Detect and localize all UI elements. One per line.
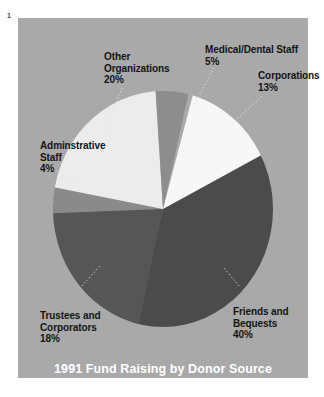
- pie-label-corporations-line1: Corporations: [258, 70, 320, 81]
- figure-container: 1: [0, 0, 324, 397]
- pie-label-trustees-and-corporators-line1: Trustees and: [40, 310, 101, 321]
- pie-label-other-organizations-line2: Organizations: [104, 63, 169, 74]
- pie-label-friends-and-bequests-percent: 40%: [233, 329, 289, 341]
- pie-label-adminstrative-staff-line2: Staff: [40, 152, 62, 163]
- chart-panel: Other Organizations 20% Medical/Dental S…: [18, 18, 308, 378]
- pie-label-trustees-and-corporators: Trustees and Corporators 18%: [40, 310, 101, 345]
- pie-label-trustees-and-corporators-line2: Corporators: [40, 322, 97, 333]
- pie-label-corporations-percent: 13%: [258, 82, 320, 94]
- footnote-marker: 1: [7, 12, 11, 20]
- pie-label-other-organizations: Other Organizations 20%: [104, 51, 169, 86]
- pie-label-friends-and-bequests-line1: Friends and: [233, 306, 289, 317]
- pie-slice-trustees-and-corporators[interactable]: [18, 203, 163, 378]
- pie-label-other-organizations-line1: Other: [104, 51, 130, 62]
- pie-label-medical-dental-staff: Medical/Dental Staff 5%: [205, 44, 298, 67]
- pie-label-friends-and-bequests: Friends and Bequests 40%: [233, 306, 289, 341]
- pie-label-adminstrative-staff-line1: Adminstrative: [40, 140, 105, 151]
- pie-label-medical-dental-staff-percent: 5%: [205, 56, 298, 68]
- chart-title: 1991 Fund Raising by Donor Source: [18, 362, 308, 376]
- pie-label-trustees-and-corporators-percent: 18%: [40, 333, 101, 345]
- pie-label-other-organizations-percent: 20%: [104, 74, 169, 86]
- pie-label-corporations: Corporations 13%: [258, 70, 320, 93]
- pie-label-medical-dental-staff-line1: Medical/Dental Staff: [205, 44, 298, 55]
- pie-slice-other-organizations[interactable]: [18, 18, 163, 209]
- pie-label-adminstrative-staff-percent: 4%: [40, 163, 105, 175]
- pie-label-friends-and-bequests-line2: Bequests: [233, 318, 277, 329]
- pie-label-adminstrative-staff: Adminstrative Staff 4%: [40, 140, 105, 175]
